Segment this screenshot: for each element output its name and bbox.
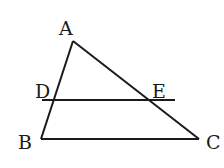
label-a: A — [58, 17, 73, 39]
triangle-diagram: A D E B C — [0, 0, 224, 168]
label-c: C — [206, 131, 221, 153]
segment-ac — [73, 41, 199, 139]
label-e: E — [152, 80, 166, 102]
label-d: D — [35, 80, 50, 102]
label-b: B — [18, 131, 32, 153]
